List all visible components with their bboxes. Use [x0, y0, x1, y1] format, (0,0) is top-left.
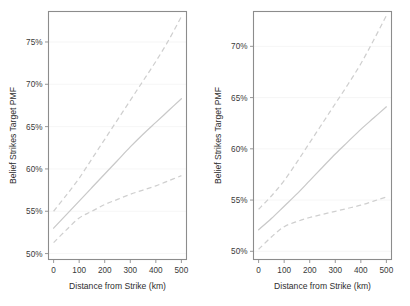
x-tick-label: 400 [149, 266, 163, 275]
y-tick-label: 60% [26, 165, 42, 174]
y-tick-label: 60% [231, 145, 247, 154]
x-axis-title: Distance from Strike (km) [69, 281, 166, 291]
curve-point-estimate [259, 107, 387, 230]
x-tick-label: 100 [277, 266, 291, 275]
y-tick-label: 65% [231, 94, 247, 103]
y-axis-title: Belief Strikes Target PMF [213, 87, 223, 184]
y-tick-label: 65% [26, 123, 42, 132]
y-tick-label: 50% [26, 250, 42, 259]
y-tick-label: 55% [231, 196, 247, 205]
chart-panel-right: 50%55%60%65%70%0100200300400500Distance … [205, 0, 410, 306]
curve-upper-confidence-bound [54, 17, 182, 212]
curve-lower-confidence-bound [54, 176, 182, 243]
x-axis-title: Distance from Strike (km) [274, 281, 371, 291]
x-tick-label: 100 [72, 266, 86, 275]
y-tick-label: 70% [26, 80, 42, 89]
x-tick-label: 300 [123, 266, 137, 275]
y-axis-title: Belief Strikes Target PMF [8, 87, 18, 184]
y-tick-label: 70% [231, 42, 247, 51]
figure-container: 50%55%60%65%70%75%0100200300400500Distan… [0, 0, 410, 306]
chart-panel-left: 50%55%60%65%70%75%0100200300400500Distan… [0, 0, 205, 306]
plot-frame [49, 12, 187, 260]
x-tick-label: 500 [175, 266, 189, 275]
x-tick-label: 400 [354, 266, 368, 275]
x-tick-label: 300 [328, 266, 342, 275]
x-tick-label: 200 [303, 266, 317, 275]
x-tick-label: 0 [256, 266, 261, 275]
x-tick-label: 0 [51, 266, 56, 275]
curve-point-estimate [54, 99, 182, 229]
y-tick-label: 50% [231, 247, 247, 256]
y-tick-label: 75% [26, 38, 42, 47]
curve-upper-confidence-bound [259, 16, 387, 210]
y-tick-label: 55% [26, 207, 42, 216]
curve-lower-confidence-bound [259, 197, 387, 249]
plot-frame [254, 12, 392, 260]
x-tick-label: 200 [98, 266, 112, 275]
x-tick-label: 500 [380, 266, 394, 275]
